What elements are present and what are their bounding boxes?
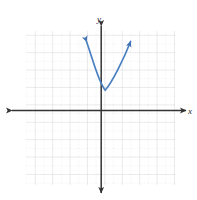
graph-figure: y x — [0, 0, 197, 200]
x-axis-label: x — [187, 106, 192, 116]
coordinate-plane-svg: y x — [0, 0, 197, 200]
y-axis-label: y — [96, 14, 101, 24]
